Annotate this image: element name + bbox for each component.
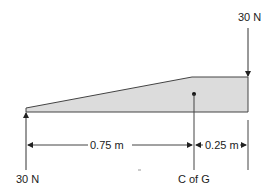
tapered-body [26, 77, 248, 112]
top-force-label: 30 N [238, 12, 261, 23]
beam-diagram [0, 0, 268, 196]
bottom-force-label: 30 N [16, 174, 39, 185]
dim-left-label: 0.75 m [90, 140, 124, 151]
dim-right-label: 0.25 m [205, 140, 239, 151]
cofg-label: C of G [178, 174, 210, 185]
